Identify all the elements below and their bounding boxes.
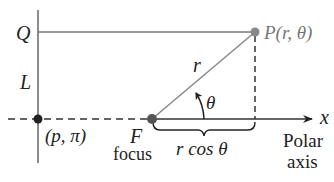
label-polar: Polar: [283, 131, 323, 150]
label-p: P(r, θ): [264, 23, 312, 42]
theta-arc-icon: [196, 93, 204, 119]
label-f: F: [130, 126, 142, 146]
polar-focus-directrix-diagram: Q L P(r, θ) r θ x (p, π) F focus r cos θ…: [0, 0, 334, 182]
label-p-pi: (p, π): [45, 126, 86, 145]
label-r: r: [193, 55, 201, 75]
radius-line: [152, 32, 255, 119]
label-l: L: [20, 72, 31, 92]
point-p-pi: [34, 115, 43, 124]
point-focus: [147, 114, 157, 124]
label-theta: θ: [206, 93, 215, 112]
label-axis: axis: [287, 152, 318, 171]
rcos-brace: [153, 122, 255, 136]
label-focus: focus: [113, 145, 152, 163]
point-p: [251, 28, 260, 37]
label-rcos: r cos θ: [176, 139, 228, 158]
label-q: Q: [16, 23, 30, 43]
label-x: x: [320, 107, 329, 127]
